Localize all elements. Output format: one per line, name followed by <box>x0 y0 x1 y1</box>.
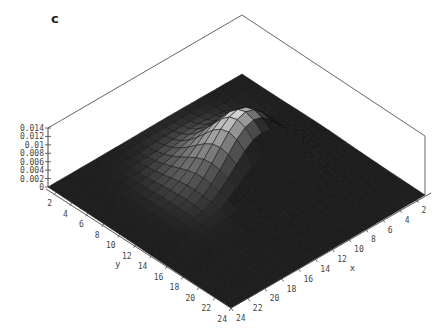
x-axis-label: x <box>350 263 356 273</box>
y-tick-label: 20 <box>186 294 196 303</box>
z-tick-label: 0.002 <box>20 175 44 184</box>
y-tick-label: 16 <box>154 273 164 282</box>
z-tick-label: 0 <box>39 183 44 192</box>
y-tick-label: 24 <box>217 315 227 324</box>
y-tick-label: 22 <box>201 304 211 313</box>
z-tick-label: 0.014 <box>20 124 44 133</box>
z-tick-label: 0.012 <box>20 132 44 141</box>
x-tick-label: 8 <box>371 235 376 244</box>
surface-plot: 00.0020.0040.0060.0080.010.0120.014 2468… <box>0 0 448 329</box>
x-tick-label: 12 <box>337 255 347 264</box>
x-tick-label: 6 <box>388 226 393 235</box>
x-tick-label: 4 <box>405 216 410 225</box>
y-tick-label: 4 <box>63 210 68 219</box>
x-tick <box>282 279 284 282</box>
y-axis-label: y <box>115 259 121 269</box>
z-tick-label: 0.01 <box>25 141 44 150</box>
z-tick-label: 0.008 <box>20 149 44 158</box>
x-tick-label: 2 <box>422 206 427 215</box>
y-tick-label: 12 <box>122 252 132 261</box>
z-axis: 00.0020.0040.0060.0080.010.0120.014 <box>20 124 51 192</box>
x-tick <box>298 269 300 272</box>
x-tick-label: 14 <box>320 265 330 274</box>
y-tick-label: 6 <box>79 220 84 229</box>
y-tick-label: 18 <box>170 283 180 292</box>
y-tick-label: 2 <box>47 199 52 208</box>
x-tick <box>248 298 250 301</box>
x-tick-label: 22 <box>253 304 263 313</box>
z-tick-label: 0.006 <box>20 158 44 167</box>
surface-mesh <box>48 74 425 308</box>
x-tick-label: 24 <box>236 314 246 323</box>
y-tick-label: 14 <box>138 262 148 271</box>
z-tick-label: 0.004 <box>20 166 44 175</box>
x-tick-label: 16 <box>303 275 313 284</box>
x-tick <box>231 308 233 311</box>
x-tick <box>265 288 267 291</box>
y-tick <box>213 297 215 300</box>
y-tick-label: 8 <box>95 231 100 240</box>
x-tick-label: 20 <box>270 294 280 303</box>
y-tick-label: 10 <box>106 241 116 250</box>
x-tick-label: 10 <box>354 245 364 254</box>
y-tick <box>229 308 231 311</box>
x-tick-label: 18 <box>287 285 297 294</box>
